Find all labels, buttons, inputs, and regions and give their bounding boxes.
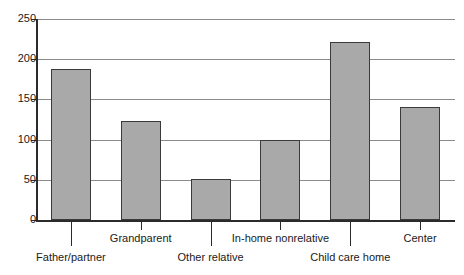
plot-area — [36, 19, 455, 220]
gridline — [36, 180, 455, 181]
x-tick-mark — [280, 220, 281, 230]
y-tick-label: 0 — [6, 214, 36, 225]
bar-chart: 050100150200250 Father/partnerGrandparen… — [0, 0, 464, 275]
gridline — [36, 99, 455, 100]
bar[interactable] — [400, 107, 440, 220]
y-tick-label: 200 — [6, 53, 36, 64]
x-axis-spine — [36, 220, 455, 222]
x-axis-label: In-home nonrelative — [232, 232, 329, 244]
x-axis-label: Father/partner — [36, 251, 106, 263]
x-tick-mark — [211, 220, 212, 246]
gridline — [36, 59, 455, 60]
x-tick-mark — [350, 220, 351, 246]
y-tick-label: 250 — [6, 13, 36, 24]
x-axis-label: Center — [404, 232, 437, 244]
y-tick-label: 100 — [6, 134, 36, 145]
bar[interactable] — [51, 69, 91, 220]
y-axis-ticks: 050100150200250 — [0, 0, 36, 275]
x-tick-mark — [71, 220, 72, 246]
x-tick-mark — [141, 220, 142, 230]
x-tick-mark — [420, 220, 421, 230]
bar[interactable] — [260, 140, 300, 220]
x-axis-label: Other relative — [178, 251, 244, 263]
y-tick-label: 50 — [6, 174, 36, 185]
bar[interactable] — [330, 42, 370, 220]
bar[interactable] — [121, 121, 161, 220]
y-axis-spine — [36, 19, 38, 220]
gridline — [36, 140, 455, 141]
y-tick-label: 150 — [6, 93, 36, 104]
x-axis-label: Grandparent — [110, 232, 172, 244]
bar[interactable] — [191, 179, 231, 220]
gridline — [36, 19, 455, 20]
x-axis-label: Child care home — [310, 251, 390, 263]
